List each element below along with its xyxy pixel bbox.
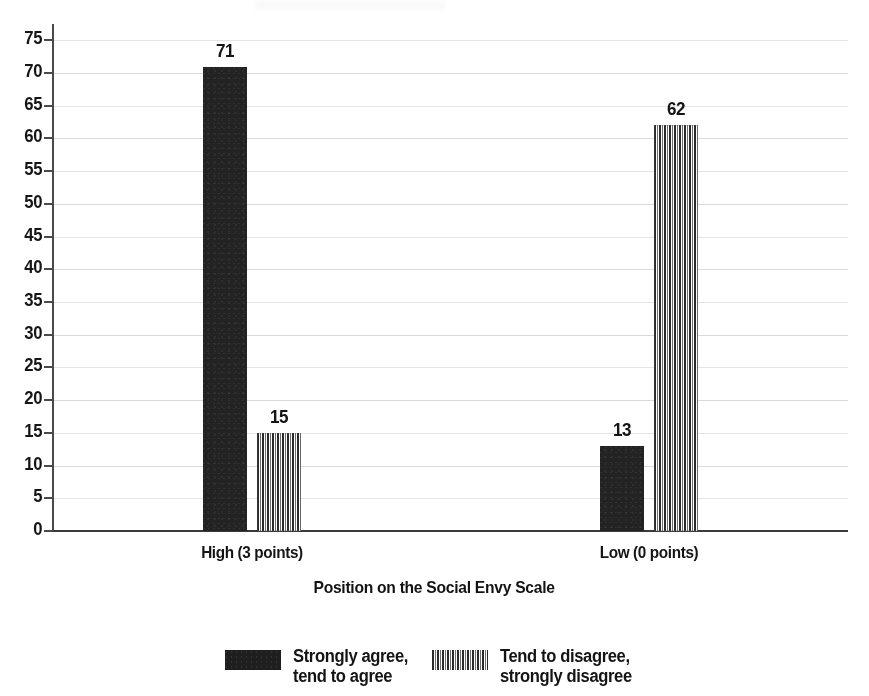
bar-agree-low[interactable] bbox=[600, 446, 644, 531]
x-axis-category-label: Low (0 points) bbox=[514, 543, 784, 563]
y-axis-tick-label: 65 bbox=[5, 93, 42, 115]
x-axis-title: Position on the Social Envy Scale bbox=[0, 578, 869, 598]
y-axis-tick-label: 40 bbox=[5, 256, 42, 278]
legend-item-label: Strongly agree, tend to agree bbox=[293, 646, 408, 686]
y-axis-tick-label: 20 bbox=[5, 387, 42, 409]
y-axis-tick-label: 0 bbox=[5, 518, 42, 540]
bar-value-label: 15 bbox=[246, 406, 311, 428]
bar-chart: 051015202530354045505560657075 71151362 … bbox=[0, 0, 869, 696]
solid-black-swatch-icon bbox=[225, 650, 281, 670]
legend-item-tend-to-disagree[interactable]: Tend to disagree, strongly disagree bbox=[432, 646, 643, 686]
scan-artifact bbox=[255, 1, 445, 10]
bar-value-label: 71 bbox=[192, 40, 257, 62]
legend-item-label: Tend to disagree, strongly disagree bbox=[500, 646, 632, 686]
legend-item-strongly-agree[interactable]: Strongly agree, tend to agree bbox=[225, 646, 418, 686]
bar-value-label: 13 bbox=[590, 419, 655, 441]
bar-disagree-low[interactable] bbox=[654, 125, 698, 531]
striped-swatch-icon bbox=[432, 650, 488, 670]
y-axis-tick-label: 50 bbox=[5, 191, 42, 213]
bar-agree-high[interactable] bbox=[203, 67, 247, 531]
y-axis-tick-label: 55 bbox=[5, 158, 42, 180]
y-axis-tick-label: 30 bbox=[5, 322, 42, 344]
y-axis-tick-label: 5 bbox=[5, 485, 42, 507]
y-axis-tick-label: 60 bbox=[5, 125, 42, 147]
y-axis-tick-label: 75 bbox=[5, 27, 42, 49]
y-axis-tick-label: 10 bbox=[5, 453, 42, 475]
bar-value-label: 62 bbox=[644, 98, 709, 120]
y-axis-tick-label: 70 bbox=[5, 60, 42, 82]
plot-area: 71151362 bbox=[53, 24, 848, 531]
y-axis-tick-label: 35 bbox=[5, 289, 42, 311]
y-axis-tick-label: 45 bbox=[5, 224, 42, 246]
chart-legend: Strongly agree, tend to agree Tend to di… bbox=[0, 640, 869, 696]
y-axis-tick-label: 25 bbox=[5, 354, 42, 376]
bar-disagree-high[interactable] bbox=[257, 433, 301, 531]
x-axis-category-label: High (3 points) bbox=[117, 543, 387, 563]
y-axis-tick-label: 15 bbox=[5, 420, 42, 442]
x-axis-title-text: Position on the Social Envy Scale bbox=[314, 578, 555, 598]
